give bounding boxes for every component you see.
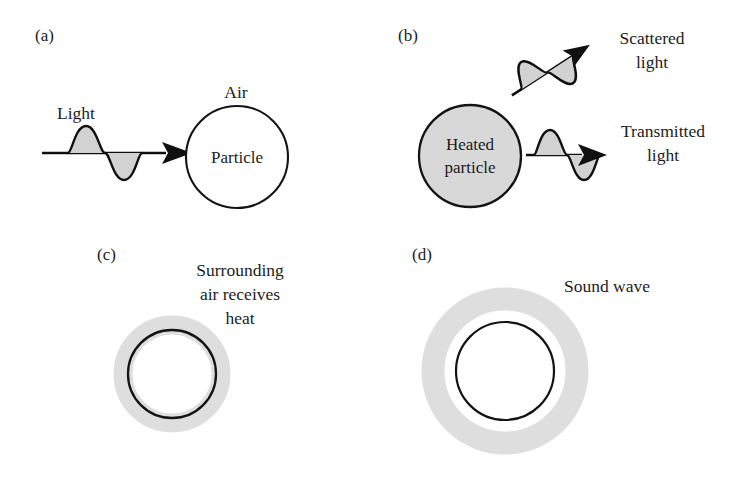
panel-a-letter: (a) — [35, 26, 54, 45]
panel-a: (a) Light Air Particle — [35, 26, 288, 208]
panel-c-label-line2: air receives — [200, 284, 280, 304]
scattered-light-label-line2: light — [636, 52, 668, 72]
incident-light-arrow — [42, 126, 192, 180]
heated-particle-label-line2: particle — [445, 158, 496, 177]
panel-b: (b) Heated particle Scattered light — [398, 25, 705, 207]
panel-b-letter: (b) — [398, 26, 418, 45]
heated-particle-label-line1: Heated — [446, 135, 495, 154]
panel-d-letter: (d) — [412, 245, 432, 264]
scattered-light-label-line1: Scattered — [619, 28, 684, 48]
panel-c-label-line1: Surrounding — [196, 260, 284, 280]
panel-a-particle-label: Particle — [211, 148, 263, 167]
scattered-light-wave — [509, 36, 586, 108]
panel-a-light-label: Light — [57, 103, 95, 123]
panel-d: (d) Sound wave — [412, 245, 650, 443]
diagram-svg: (a) Light Air Particle (b) Heated partic… — [0, 0, 730, 487]
transmitted-light-arrow — [526, 130, 607, 180]
panel-c-letter: (c) — [97, 245, 116, 264]
transmitted-light-label-line2: light — [647, 145, 679, 165]
panel-c-heat-ring — [123, 325, 221, 423]
panel-c-label-line3: heat — [225, 308, 254, 328]
panel-d-label-line1: Sound wave — [564, 276, 650, 296]
heated-particle-circle — [419, 105, 521, 207]
panel-d-particle-outline — [456, 322, 554, 420]
panel-c: (c) Surrounding air receives heat — [97, 245, 284, 423]
panel-a-air-label: Air — [224, 82, 248, 102]
transmitted-light-label-line1: Transmitted — [621, 121, 705, 141]
figure-canvas: (a) Light Air Particle (b) Heated partic… — [0, 0, 730, 487]
incident-light-wave — [68, 126, 142, 180]
scattered-light-arrow — [499, 25, 602, 114]
panel-c-particle-outline — [128, 330, 216, 418]
